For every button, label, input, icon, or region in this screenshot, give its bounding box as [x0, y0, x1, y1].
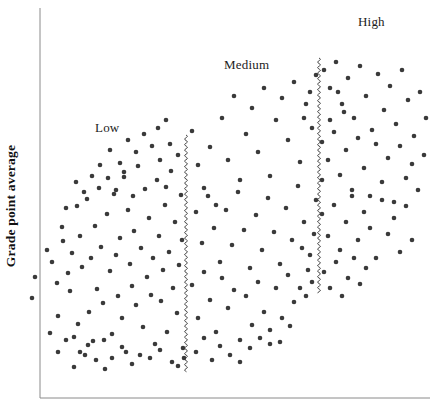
data-point: [248, 346, 253, 351]
data-point: [268, 342, 273, 347]
data-point: [320, 140, 325, 145]
data-point: [320, 212, 325, 217]
data-point: [134, 150, 139, 155]
data-point: [268, 328, 273, 333]
data-point: [296, 184, 301, 189]
data-point: [334, 260, 339, 265]
data-point: [274, 118, 279, 123]
data-point: [61, 239, 66, 244]
data-point: [340, 294, 345, 299]
data-point: [194, 210, 199, 215]
data-point: [292, 80, 297, 85]
data-point: [368, 226, 373, 231]
data-point: [74, 180, 79, 185]
data-point: [148, 356, 153, 361]
data-point: [404, 176, 409, 181]
data-point: [180, 238, 185, 243]
data-point: [177, 263, 182, 268]
data-point: [91, 339, 96, 344]
data-point: [236, 190, 241, 195]
data-point: [418, 90, 423, 95]
data-point: [302, 220, 307, 225]
data-point: [206, 194, 211, 199]
data-point: [280, 316, 285, 321]
data-point: [72, 335, 77, 340]
data-point: [89, 256, 94, 261]
data-point: [157, 234, 162, 239]
data-point: [168, 142, 173, 147]
data-point: [145, 275, 150, 280]
data-point: [151, 256, 156, 261]
data-point: [138, 353, 143, 358]
data-point: [194, 350, 199, 355]
data-point: [394, 122, 399, 127]
data-point: [220, 276, 225, 281]
data-point: [141, 325, 146, 330]
data-point: [374, 142, 379, 147]
data-point: [248, 266, 253, 271]
data-point: [190, 283, 195, 288]
data-point: [85, 197, 90, 202]
data-point: [190, 129, 195, 134]
data-point: [232, 94, 237, 99]
data-point: [106, 176, 111, 181]
data-point: [382, 108, 387, 113]
data-point: [196, 316, 201, 321]
data-point: [128, 262, 133, 267]
data-point: [118, 161, 123, 166]
data-point: [82, 190, 87, 195]
data-point: [220, 116, 225, 121]
data-point: [147, 216, 152, 221]
data-point: [392, 200, 397, 205]
data-point: [386, 156, 391, 161]
data-point: [386, 232, 391, 237]
data-point: [200, 241, 205, 246]
data-point: [362, 166, 367, 171]
data-point: [143, 187, 148, 192]
region-label-low: Low: [95, 120, 119, 136]
data-point: [298, 160, 303, 165]
data-point: [250, 323, 255, 328]
data-point: [310, 280, 315, 285]
data-point: [118, 236, 123, 241]
data-point: [159, 299, 164, 304]
data-point: [202, 270, 207, 275]
data-point: [176, 364, 181, 369]
data-point: [284, 206, 289, 211]
data-point: [149, 293, 154, 298]
data-point: [116, 294, 121, 299]
data-point: [326, 234, 331, 239]
data-point: [308, 90, 313, 95]
data-point: [179, 193, 184, 198]
data-point: [136, 164, 141, 169]
data-point: [320, 178, 325, 183]
data-point: [334, 60, 339, 65]
data-point: [314, 198, 319, 203]
data-point: [108, 269, 113, 274]
data-point: [218, 344, 223, 349]
data-point: [110, 332, 115, 337]
data-point: [97, 186, 102, 191]
data-point: [338, 173, 343, 178]
data-point: [328, 286, 333, 291]
data-point: [230, 243, 235, 248]
data-point: [181, 346, 186, 351]
data-point: [356, 136, 361, 141]
data-point: [290, 238, 295, 243]
data-point: [356, 238, 361, 243]
data-point: [262, 310, 267, 315]
data-point: [110, 356, 115, 361]
data-point: [278, 340, 283, 345]
data-point: [68, 289, 73, 294]
data-point: [93, 224, 98, 229]
data-point: [268, 174, 273, 179]
data-point: [78, 234, 83, 239]
data-point: [132, 229, 137, 234]
data-point: [210, 358, 215, 363]
data-point: [280, 96, 285, 101]
data-point: [328, 86, 333, 91]
data-point: [306, 268, 311, 273]
data-point: [95, 287, 100, 292]
data-point: [328, 118, 333, 123]
data-point: [232, 288, 237, 293]
